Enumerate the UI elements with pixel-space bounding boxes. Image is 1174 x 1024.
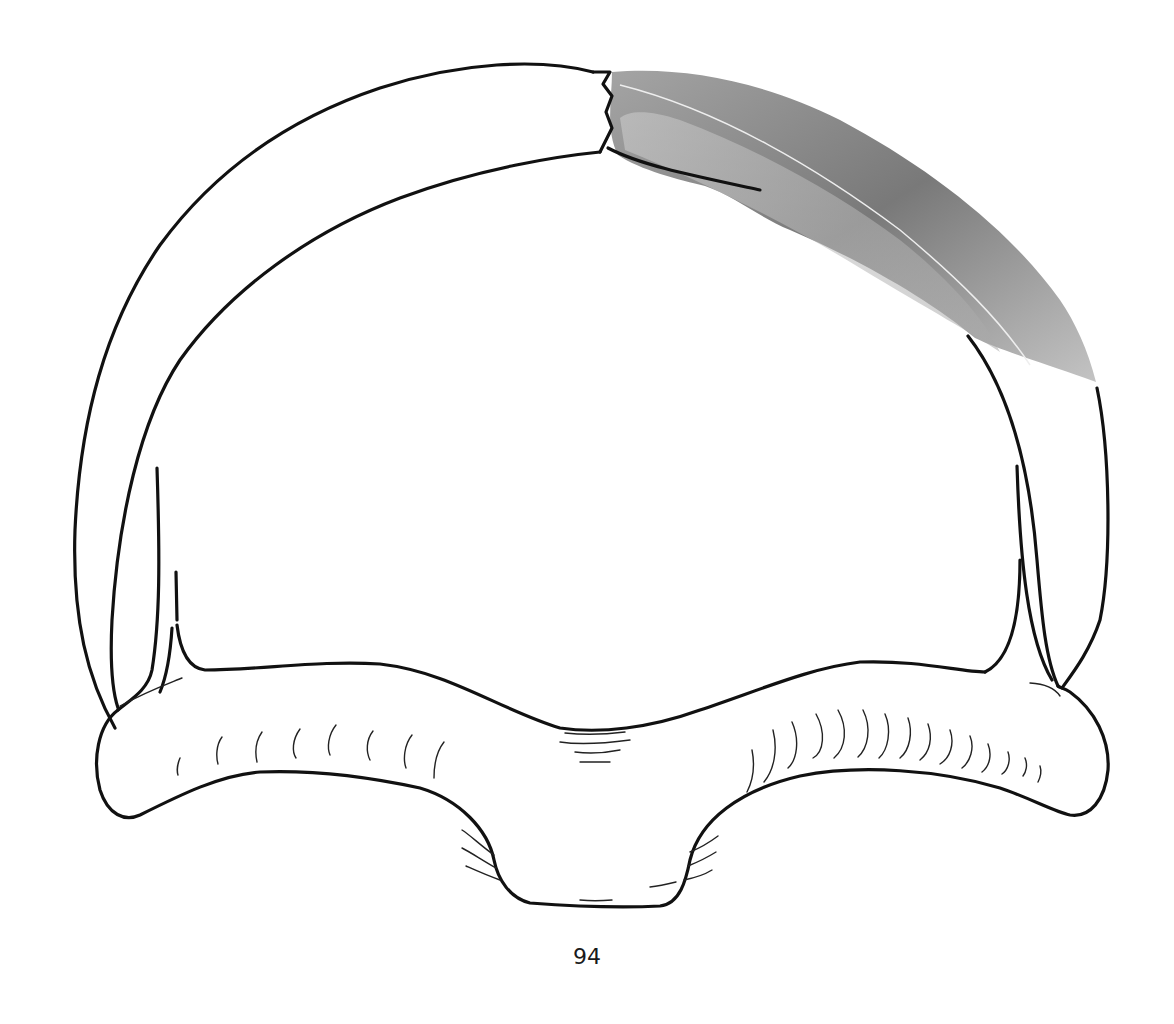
right-outer-arch — [1062, 388, 1108, 688]
shaded-arch-segment — [610, 71, 1096, 382]
anatomical-line-drawing — [0, 0, 1174, 1024]
body-upper-edge — [177, 625, 985, 730]
inner-arch-outline — [111, 152, 600, 708]
left-end-knob — [97, 686, 1109, 907]
page-number: 94 — [0, 944, 1174, 969]
arch-junction — [593, 72, 612, 152]
